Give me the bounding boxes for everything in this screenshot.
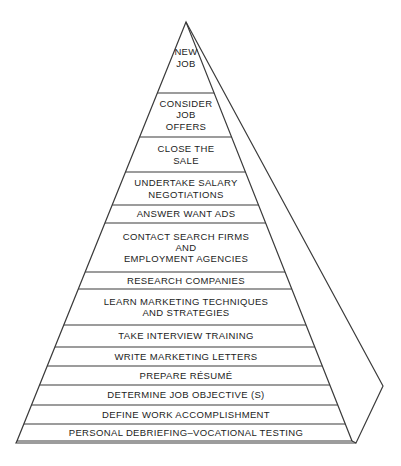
pyramid-side-face xyxy=(186,22,383,443)
pyramid-outline-svg xyxy=(0,0,401,466)
pyramid-front-face xyxy=(17,22,352,441)
pyramid-diagram: NEW JOBCONSIDER JOB OFFERSCLOSE THE SALE… xyxy=(0,0,401,466)
